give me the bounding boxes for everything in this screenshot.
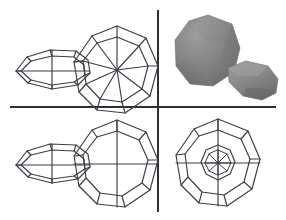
figure-canvas [0,0,286,220]
figure-root [0,0,286,220]
axial-inner-spokes [205,150,231,175]
figure-background [0,0,286,220]
